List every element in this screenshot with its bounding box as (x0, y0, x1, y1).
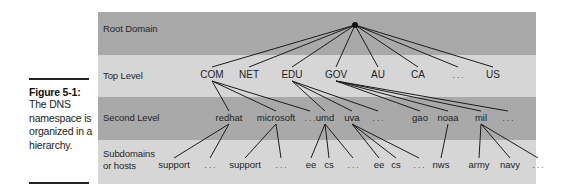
node-host-ee: ee (306, 159, 317, 170)
node-host-nws: nws (433, 159, 450, 170)
node-host-support: support (158, 159, 190, 170)
edge-umd-ee (311, 124, 325, 158)
node-tld-ellipsis: . . . (452, 71, 463, 80)
edge-root-com (212, 25, 355, 67)
edge-root-ellipsis (355, 25, 458, 67)
edge-uva-ellipsis (352, 124, 419, 158)
edge-microsoft-ellipsis (276, 124, 281, 158)
node-tld-edu: EDU (281, 69, 302, 80)
node-host-navy: navy (500, 159, 520, 170)
edge-root-ca (355, 25, 418, 67)
edge-gov-noaa (336, 81, 448, 111)
node-second-umd: umd (316, 112, 334, 123)
node-second-gao: gao (412, 112, 428, 123)
node-tld-net: NET (239, 69, 259, 80)
edge-edu-ellipsis (292, 81, 378, 111)
edge-microsoft-support (245, 124, 276, 158)
node-host-ellipsis: . . . (413, 161, 424, 170)
node-tld-com: COM (200, 69, 223, 80)
edge-gov-ellipsis (336, 81, 508, 111)
edge-com-microsoft (212, 81, 276, 111)
dns-tree: COMNETEDUGOVAUCA. . .USredhatmicrosoft. … (0, 0, 561, 196)
edge-umd-cs (325, 124, 329, 158)
edge-root-us (355, 25, 493, 67)
edge-mil-army (479, 124, 481, 158)
node-second-mil: mil (475, 112, 487, 123)
node-host-ellipsis: . . . (204, 161, 215, 170)
edge-noaa-nws (441, 124, 448, 158)
node-second-ellipsis: . . . (502, 114, 513, 123)
node-second-redhat: redhat (216, 112, 243, 123)
edge-uva-cs (352, 124, 396, 158)
node-host-support: support (229, 159, 261, 170)
root-node (352, 22, 358, 28)
node-tld-us: US (486, 69, 500, 80)
edge-mil-navy (481, 124, 510, 158)
node-host-army: army (468, 159, 489, 170)
edge-redhat-ellipsis (210, 124, 229, 158)
edge-mil-ellipsis (481, 124, 538, 158)
node-tld-au: AU (371, 69, 385, 80)
node-host-ellipsis: . . . (347, 161, 358, 170)
node-second-ellipsis: . . . (304, 114, 315, 123)
node-host-ellipsis: . . . (275, 161, 286, 170)
node-second-microsoft: microsoft (257, 112, 296, 123)
edge-redhat-support (174, 124, 229, 158)
edge-umd-ellipsis (325, 124, 353, 158)
edge-edu-uva (292, 81, 352, 111)
edge-uva-ee (352, 124, 379, 158)
node-host-ee: ee (374, 159, 385, 170)
node-host-ellipsis: . . . (532, 161, 543, 170)
node-host-cs: cs (391, 159, 401, 170)
node-host-cs: cs (324, 159, 334, 170)
node-second-noaa: noaa (437, 112, 459, 123)
node-tld-gov: GOV (325, 69, 348, 80)
node-second-uva: uva (344, 112, 360, 123)
node-second-ellipsis: . . . (372, 114, 383, 123)
node-tld-ca: CA (411, 69, 425, 80)
